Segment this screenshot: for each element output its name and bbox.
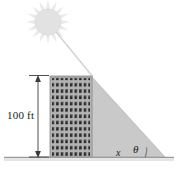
figure-canvas [0,0,176,172]
shadow-triangle-icon [92,77,165,157]
trigonometry-figure: 100 ft x θ [0,0,176,172]
height-label: 100 ft [7,110,34,121]
building-icon [50,76,92,157]
angle-label: θ [133,144,138,155]
shadow-length-label: x [116,148,120,158]
